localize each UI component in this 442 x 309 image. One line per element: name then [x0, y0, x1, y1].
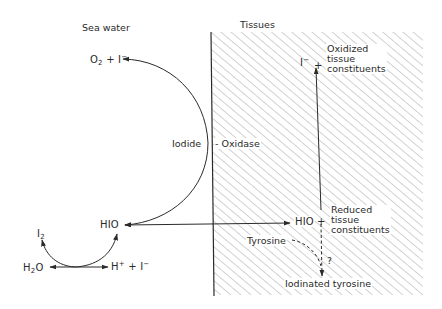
water-h-symbol: H: [23, 262, 31, 273]
tyrosine-label: Tyrosine: [246, 235, 287, 246]
hio-right-label: HIO: [294, 216, 315, 227]
iodine-subscript: 2: [40, 233, 45, 241]
water-label: H2O: [23, 262, 43, 273]
oxygen-plus-iodide-label: O2 + I−: [90, 54, 127, 65]
tissues-region: [211, 32, 423, 296]
tissues-label: Tissues: [240, 19, 275, 30]
iodide-top-charge: −: [303, 56, 309, 64]
hio-left-label: HIO: [100, 219, 119, 230]
iodide-oxidase-arc-lower: [125, 143, 208, 225]
uncertain-step-question-mark: ?: [327, 255, 332, 266]
plus-sign-bottom: +: [128, 261, 137, 272]
oxidase-label: - Oxidase: [214, 138, 261, 149]
i2-formation-arc: [42, 240, 75, 267]
iodine-label: I2: [37, 228, 45, 239]
water-o-symbol: O: [35, 262, 43, 273]
sea-water-label: Sea water: [82, 22, 130, 33]
oxygen-subscript: 2: [98, 59, 103, 67]
iodide-oxidase-arc: [123, 59, 208, 143]
reduced-tissue-constituents-label: Reduced tissue constituents: [330, 205, 391, 235]
plus-sign: +: [106, 54, 115, 65]
iodinated-tyrosine-label: Iodinated tyrosine: [284, 278, 372, 289]
iodide-label: Iodide: [172, 138, 201, 149]
oxygen-symbol: O: [90, 54, 98, 65]
water-subscript: 2: [31, 267, 36, 275]
plus-top-label: +: [314, 60, 323, 71]
proton-symbol: H: [111, 261, 119, 272]
plus-right-label: +: [317, 216, 326, 227]
proton-plus-iodide-label: H+ + I−: [111, 261, 149, 272]
iodide-bottom-charge: −: [143, 260, 149, 268]
oxidized-tissue-constituents-label: Oxidized tissue constituents: [326, 44, 387, 74]
iodine-metabolism-diagram: Sea water Tissues O2 + I− Iodide - Oxida…: [0, 0, 442, 309]
iodide-charge: −: [121, 53, 127, 61]
iodide-top-label: I−: [300, 57, 309, 68]
proton-charge: +: [119, 260, 125, 268]
